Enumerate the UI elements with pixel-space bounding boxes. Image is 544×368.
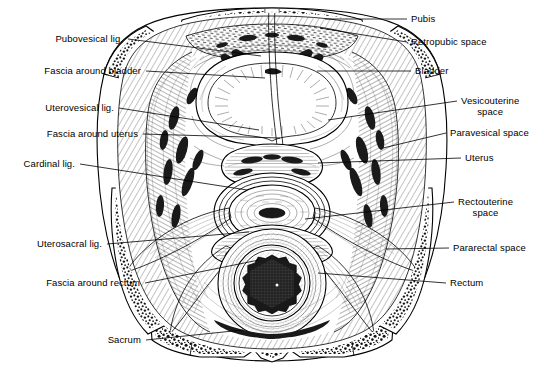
label-text: Fascia around uterus (47, 128, 138, 139)
label-pubis: Pubis (411, 13, 435, 24)
label-paravesical-space: Paravesical space (450, 127, 529, 138)
label-text: Paravesical space (450, 127, 529, 138)
label-fascia-around-bladder: Fascia around bladder (44, 65, 141, 76)
label-text: Uterus (465, 152, 494, 163)
label-pubovesical-lig: Pubovesical lig. (55, 33, 123, 44)
label-text: Pubis (411, 13, 435, 24)
label-bladder: Bladder (415, 65, 448, 76)
label-pararectal-space: Pararectal space (453, 242, 526, 253)
label-rectum: Rectum (450, 277, 483, 288)
label-cardinal-lig: Cardinal lig. (24, 158, 75, 169)
label-sacrum: Sacrum (108, 334, 141, 345)
pelvic-cross-section-figure (0, 0, 544, 368)
label-text: Rectum (450, 277, 483, 288)
label-uterovesical-lig: Uterovesical lig. (45, 102, 114, 113)
label-text-line2: space (461, 106, 519, 117)
label-text: Bladder (415, 65, 448, 76)
label-text: Pararectal space (453, 242, 526, 253)
label-retropubic-space: Retropubic space (411, 36, 487, 47)
label-fascia-around-uterus: Fascia around uterus (47, 128, 138, 139)
label-text: Uterosacral lig. (37, 238, 102, 249)
label-text: Fascia around bladder (44, 65, 141, 76)
label-rectouterine-space: Rectouterinespace (458, 196, 513, 218)
label-text: Uterovesical lig. (45, 102, 114, 113)
pelvic-soft-tissue (114, 6, 431, 353)
label-text: Fascia around rectum (46, 277, 140, 288)
label-text: Vesicouterine (461, 95, 519, 106)
label-text: Pubovesical lig. (55, 33, 123, 44)
label-uterosacral-lig: Uterosacral lig. (37, 238, 102, 249)
label-text: Retropubic space (411, 36, 487, 47)
label-text: Sacrum (108, 334, 141, 345)
label-text: Cardinal lig. (24, 158, 75, 169)
label-text-line2: space (458, 207, 513, 218)
label-fascia-around-rectum: Fascia around rectum (46, 277, 140, 288)
label-uterus: Uterus (465, 152, 494, 163)
label-text: Rectouterine (458, 196, 513, 207)
label-vesicouterine-space: Vesicouterinespace (461, 95, 519, 117)
rectum (218, 229, 326, 337)
